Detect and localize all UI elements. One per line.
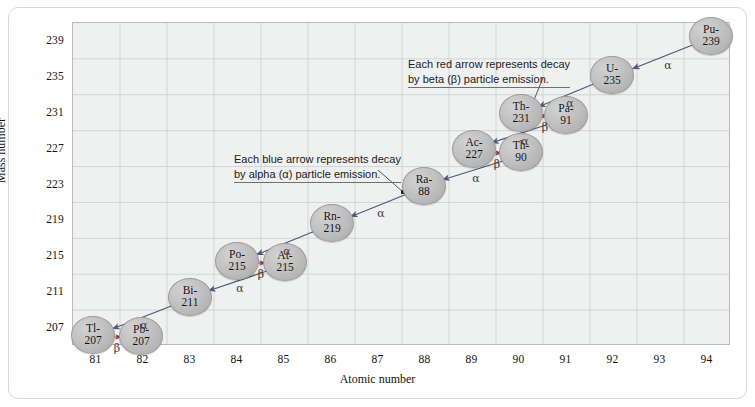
nuclide-number: 231 — [512, 113, 529, 125]
decay-label-alpha-pa-91: α — [521, 135, 528, 148]
nuclide-number: 239 — [702, 36, 719, 48]
nuclide-node-tl-207[interactable]: Tl-207 — [71, 316, 115, 354]
nuclide-number: 227 — [465, 149, 482, 161]
alpha-callout-line1: Each blue arrow represents decay — [234, 152, 401, 167]
beta-callout-line2: by beta (β) particle emission. — [408, 72, 570, 87]
alpha-callout-line2: by alpha (α) particle emission. — [234, 167, 401, 182]
nuclide-node-bi-211[interactable]: Bi-211 — [168, 278, 212, 316]
nuclide-node-rn-219[interactable]: Rn-219 — [310, 204, 354, 242]
nuclide-number: 90 — [515, 152, 527, 164]
nuclide-number: 91 — [560, 115, 572, 127]
decay-series-figure: Mass number 207211215219223227231235239 … — [0, 0, 755, 407]
decay-label-alpha-u-235: α — [566, 97, 573, 110]
decay-label-beta-tl-207: β — [114, 342, 120, 355]
alpha-callout: Each blue arrow represents decayby alpha… — [234, 152, 401, 183]
nuclide-node-ra-88[interactable]: Ra-88 — [402, 167, 446, 205]
beta-callout: Each red arrow represents decayby beta (… — [408, 57, 570, 88]
beta-callout-line1: Each red arrow represents decay — [408, 57, 570, 72]
decay-label-alpha-rn-219: α — [283, 245, 290, 258]
nuclide-number: 88 — [418, 186, 430, 198]
nuclide-node-u-235[interactable]: U-235 — [590, 56, 634, 94]
nuclide-number: 235 — [603, 75, 620, 87]
decay-label-alpha-bi-211: α — [140, 319, 147, 332]
nuclide-node-pu-239[interactable]: Pu-239 — [689, 17, 733, 55]
nuclide-number: 207 — [84, 335, 101, 347]
decay-label-alpha-th-90: α — [472, 172, 479, 185]
nuclide-number: 207 — [132, 336, 149, 348]
nuclide-number: 215 — [228, 261, 245, 273]
nuclide-node-ac-227[interactable]: Ac-227 — [452, 130, 496, 168]
nuclide-node-th-231[interactable]: Th-231 — [499, 94, 543, 132]
decay-label-alpha-ra-88: α — [377, 207, 384, 220]
decay-label-alpha-pu-239: α — [664, 59, 671, 72]
decay-label-beta-ac-227: β — [494, 158, 500, 171]
decay-label-alpha-at-215: α — [236, 282, 243, 295]
nuclide-node-po-215[interactable]: Po-215 — [215, 242, 259, 280]
nuclide-number: 219 — [323, 223, 340, 235]
decay-label-beta-th-231: β — [542, 121, 548, 134]
nuclide-number: 215 — [276, 262, 293, 274]
nuclide-number: 211 — [182, 297, 199, 309]
decay-label-beta-po-215: β — [258, 268, 264, 281]
